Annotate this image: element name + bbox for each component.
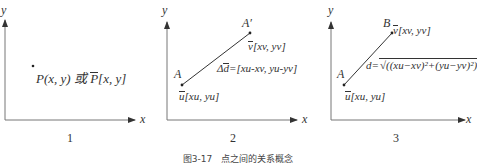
- point-b-label: B: [383, 17, 390, 29]
- delta-d-formula: Δd=[xu-xv, yu-yv]: [217, 63, 297, 74]
- panel-2-number: 2: [230, 132, 236, 144]
- panel-2-y-axis-label: y: [162, 4, 167, 16]
- vector-v-label: v[xv, yv]: [393, 25, 431, 36]
- vector-v-label: v[xv, yv]: [248, 41, 286, 52]
- panel-1-point-label: P(x, y) 或 P[x, y]: [36, 72, 126, 85]
- figure-caption: 图3-17 点之间的关系概念: [0, 152, 476, 165]
- distance-formula: d=√((xu−xv)²+(yu−yv)²): [366, 60, 477, 71]
- panel-3-axes: [331, 22, 465, 120]
- panel-1-y-axis-label: y: [1, 4, 6, 16]
- panel-3-x-axis-label: x: [466, 113, 471, 125]
- panel-3-number: 3: [393, 132, 399, 144]
- panel-1-x-axis-label: x: [140, 113, 145, 125]
- point-a-label: A: [337, 68, 344, 80]
- panel-2-x-axis-label: x: [302, 113, 307, 125]
- point-a-label: A: [174, 68, 181, 80]
- point-a-prime-label: A′: [242, 17, 252, 29]
- vector-p: P: [90, 72, 98, 85]
- panel-1-number: 1: [67, 132, 73, 144]
- panel-1-axes: [5, 20, 135, 120]
- panel-3-y-axis-label: y: [328, 4, 333, 16]
- vector-u-label: u[xu, yu]: [179, 91, 219, 102]
- vector-u-label: u[xu, yu]: [345, 91, 385, 102]
